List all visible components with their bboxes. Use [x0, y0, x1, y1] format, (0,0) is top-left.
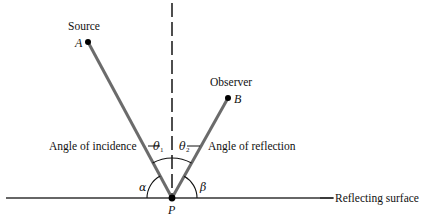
theta2-subscript: 2: [186, 146, 190, 154]
point-b-dot: [225, 95, 231, 101]
point-b-label: B: [234, 92, 242, 106]
theta1-subscript: 1: [160, 146, 164, 154]
angle-of-reflection-label: Angle of reflection: [208, 140, 296, 153]
alpha-symbol: α: [139, 181, 147, 194]
reflecting-surface-label: Reflecting surface: [335, 192, 419, 205]
alpha-arc: [147, 176, 160, 198]
point-a-label: A: [74, 36, 83, 50]
point-p-dot: [169, 195, 176, 202]
beta-symbol: β: [199, 181, 206, 194]
theta2-symbol: θ: [179, 140, 186, 153]
incident-ray: [88, 42, 172, 198]
reflection-diagram: Source A Observer B Angle of incidence θ…: [0, 0, 424, 217]
theta1-symbol: θ: [153, 140, 160, 153]
beta-arc: [184, 176, 197, 198]
angle-of-incidence-label: Angle of incidence: [49, 140, 137, 153]
source-label: Source: [68, 20, 100, 32]
observer-label: Observer: [210, 76, 252, 88]
point-a-dot: [85, 39, 91, 45]
point-p-label: P: [167, 203, 176, 217]
